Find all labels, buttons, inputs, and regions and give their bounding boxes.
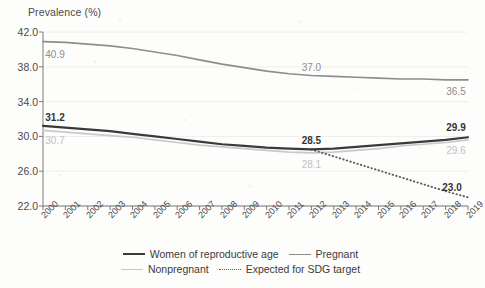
data-point-label: 28.1 xyxy=(302,158,321,169)
legend-row-1: Women of reproductive age Pregnant xyxy=(123,248,358,260)
data-point-label: 40.9 xyxy=(45,48,64,59)
data-point-label: 31.2 xyxy=(45,111,64,122)
data-point-label: 29.9 xyxy=(446,122,465,133)
legend-item-women-of-reproductive-age[interactable]: Women of reproductive age xyxy=(123,248,279,260)
legend-swatch-solid-mid-icon xyxy=(289,254,311,255)
legend-label: Expected for SDG target xyxy=(246,263,360,275)
legend-swatch-solid-dark-icon xyxy=(123,253,145,255)
legend-label: Nonpregnant xyxy=(148,263,209,275)
data-point-label: 36.5 xyxy=(446,85,465,96)
data-point-label: 29.6 xyxy=(446,144,465,155)
legend-swatch-solid-light-icon xyxy=(121,269,143,270)
legend-item-nonpregnant[interactable]: Nonpregnant xyxy=(121,263,209,275)
data-point-label: 37.0 xyxy=(302,61,321,72)
chart-legend: Women of reproductive age Pregnant Nonpr… xyxy=(0,248,481,275)
legend-item-pregnant[interactable]: Pregnant xyxy=(289,248,359,260)
legend-swatch-dotted-icon xyxy=(219,269,241,270)
legend-label: Women of reproductive age xyxy=(150,248,279,260)
data-point-label: 23.0 xyxy=(442,182,461,193)
legend-row-2: Nonpregnant Expected for SDG target xyxy=(121,263,360,275)
legend-label: Pregnant xyxy=(316,248,359,260)
legend-item-expected-for-sdg-target[interactable]: Expected for SDG target xyxy=(219,263,360,275)
data-point-label: 28.5 xyxy=(302,135,321,146)
data-point-label: 30.7 xyxy=(45,135,64,146)
